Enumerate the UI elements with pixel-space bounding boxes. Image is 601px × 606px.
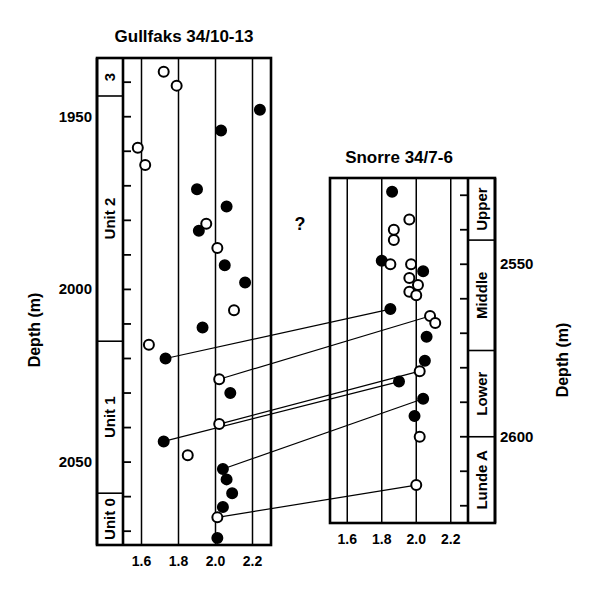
data-point-gullfaks-15 bbox=[144, 340, 154, 350]
x-tick-label-gullfaks-1.8: 1.8 bbox=[169, 553, 189, 569]
data-point-gullfaks-7 bbox=[221, 201, 231, 211]
x-tick-label-snorre-1.6: 1.6 bbox=[338, 531, 358, 547]
data-point-gullfaks-14 bbox=[197, 322, 207, 332]
unit-label-gullfaks-3: Unit 0 bbox=[102, 498, 119, 540]
data-point-snorre-11 bbox=[411, 290, 421, 300]
data-point-gullfaks-6 bbox=[192, 184, 202, 194]
correlation-line-2 bbox=[219, 371, 420, 424]
data-point-gullfaks-25 bbox=[218, 502, 228, 512]
data-point-gullfaks-22 bbox=[218, 464, 228, 474]
depth-tick-label-snorre-2600: 2600 bbox=[500, 428, 533, 445]
unit-label-snorre-2: Lower bbox=[473, 371, 490, 415]
data-point-gullfaks-26 bbox=[212, 512, 222, 522]
data-point-snorre-20 bbox=[409, 411, 419, 421]
data-point-gullfaks-10 bbox=[212, 243, 222, 253]
data-point-gullfaks-24 bbox=[227, 488, 237, 498]
data-point-gullfaks-9 bbox=[194, 225, 204, 235]
x-tick-label-snorre-2.2: 2.2 bbox=[441, 531, 461, 547]
data-point-snorre-17 bbox=[415, 366, 425, 376]
panel-title-snorre: Snorre 34/7-6 bbox=[345, 148, 453, 167]
panel-title-gullfaks: Gullfaks 34/10-13 bbox=[115, 27, 254, 46]
data-point-gullfaks-16 bbox=[160, 353, 170, 363]
data-point-gullfaks-0 bbox=[159, 67, 169, 77]
data-point-snorre-21 bbox=[415, 432, 425, 442]
data-point-snorre-19 bbox=[418, 394, 428, 404]
data-point-gullfaks-12 bbox=[240, 277, 250, 287]
data-point-snorre-22 bbox=[411, 480, 421, 490]
data-point-gullfaks-27 bbox=[212, 533, 222, 543]
data-point-gullfaks-23 bbox=[221, 474, 231, 484]
x-tick-label-snorre-2: 2.0 bbox=[407, 531, 427, 547]
data-point-gullfaks-3 bbox=[216, 125, 226, 135]
data-point-snorre-18 bbox=[394, 376, 404, 386]
data-point-snorre-7 bbox=[418, 266, 428, 276]
correlation-line-0 bbox=[166, 309, 391, 358]
data-point-snorre-16 bbox=[420, 356, 430, 366]
data-point-gullfaks-20 bbox=[159, 436, 169, 446]
unit-label-gullfaks-1: Unit 2 bbox=[102, 198, 119, 240]
data-point-snorre-8 bbox=[404, 273, 414, 283]
correlation-line-5 bbox=[217, 485, 416, 517]
unit-label-snorre-0: Upper bbox=[473, 187, 490, 231]
x-tick-label-snorre-1.8: 1.8 bbox=[372, 531, 392, 547]
depth-tick-label-gullfaks-2000: 2000 bbox=[59, 280, 92, 297]
data-point-gullfaks-11 bbox=[220, 260, 230, 270]
correlation-line-3 bbox=[164, 382, 399, 442]
depth-tick-label-snorre-2550: 2550 bbox=[500, 255, 533, 272]
data-point-snorre-15 bbox=[421, 332, 431, 342]
data-point-snorre-5 bbox=[385, 259, 395, 269]
unit-label-snorre-3: Lunde A bbox=[473, 450, 490, 510]
x-tick-label-gullfaks-1.6: 1.6 bbox=[132, 553, 152, 569]
data-point-snorre-2 bbox=[389, 225, 399, 235]
depth-tick-label-gullfaks-2050: 2050 bbox=[59, 453, 92, 470]
data-point-snorre-14 bbox=[430, 318, 440, 328]
y-axis-title-right: Depth (m) bbox=[554, 323, 571, 398]
depth-tick-label-gullfaks-1950: 1950 bbox=[59, 108, 92, 125]
data-point-gullfaks-1 bbox=[172, 81, 182, 91]
unit-label-gullfaks-2: Unit 1 bbox=[102, 396, 119, 438]
data-point-snorre-1 bbox=[404, 214, 414, 224]
y-axis-title-left: Depth (m) bbox=[26, 293, 43, 368]
data-point-gullfaks-2 bbox=[255, 105, 265, 115]
data-point-gullfaks-17 bbox=[214, 374, 224, 384]
correlation-line-1 bbox=[219, 316, 430, 379]
data-point-snorre-6 bbox=[406, 259, 416, 269]
data-point-gullfaks-21 bbox=[183, 450, 193, 460]
data-point-gullfaks-13 bbox=[229, 305, 239, 315]
data-point-gullfaks-18 bbox=[225, 388, 235, 398]
data-point-gullfaks-5 bbox=[140, 160, 150, 170]
data-point-snorre-0 bbox=[387, 187, 397, 197]
x-tick-label-gullfaks-2.2: 2.2 bbox=[243, 553, 263, 569]
x-tick-label-gullfaks-2: 2.0 bbox=[206, 553, 226, 569]
data-point-gullfaks-4 bbox=[133, 143, 143, 153]
data-point-snorre-3 bbox=[389, 235, 399, 245]
figure-canvas: Gullfaks 34/10-133Unit 2Unit 1Unit 01950… bbox=[0, 0, 601, 606]
unit-label-snorre-1: Middle bbox=[473, 272, 490, 320]
data-point-gullfaks-19 bbox=[214, 419, 224, 429]
unit-label-gullfaks-0: 3 bbox=[102, 73, 119, 81]
data-point-snorre-12 bbox=[385, 304, 395, 314]
well-log-correlation-figure: Gullfaks 34/10-133Unit 2Unit 1Unit 01950… bbox=[0, 0, 601, 606]
data-point-snorre-9 bbox=[413, 280, 423, 290]
uncertainty-question-mark: ? bbox=[295, 214, 306, 234]
